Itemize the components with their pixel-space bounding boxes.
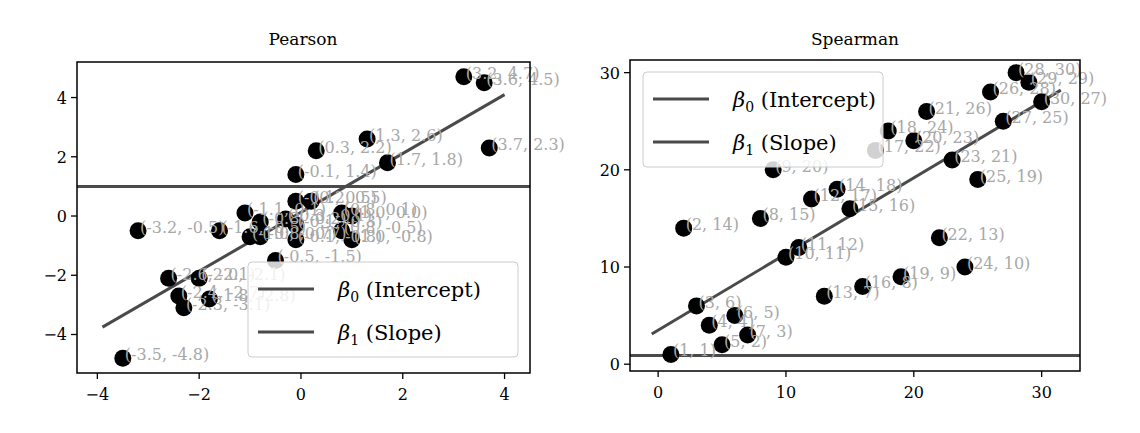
spearman-point-label: (27, 25) <box>1005 108 1068 127</box>
pearson-title: Pearson <box>269 29 338 49</box>
pearson-x-tick-label: 2 <box>398 385 408 404</box>
spearman-y-tick-label: 20 <box>600 161 620 180</box>
pearson-legend: β0 (Intercept)β1 (Slope) <box>248 262 518 357</box>
spearman-x-tick-label: 20 <box>904 383 924 402</box>
spearman-point-label: (17, 22) <box>877 137 940 156</box>
spearman-point-label: (8, 15) <box>762 205 815 224</box>
pearson-point-label: (-0.1, 1.4) <box>298 162 377 181</box>
pearson-x-tick-label: 4 <box>499 385 509 404</box>
pearson-y-tick-label: 0 <box>57 207 67 226</box>
pearson-y-axis: −4−2024 <box>43 89 77 345</box>
spearman-y-tick-label: 0 <box>610 355 620 374</box>
spearman-point-label: (22, 13) <box>941 225 1004 244</box>
spearman-x-axis: 0102030 <box>653 371 1052 402</box>
spearman-point-label: (30, 27) <box>1044 89 1107 108</box>
spearman-point-label: (5, 2) <box>724 332 767 351</box>
figure-canvas: Pearson (3.2, 4.7)(3.6, 4.5)(3.7, 2.3)(1… <box>0 0 1140 433</box>
spearman-point-label: (15, 16) <box>852 196 915 215</box>
pearson-point-label: (-3.2, -0.5) <box>140 218 224 237</box>
spearman-x-tick-label: 0 <box>653 383 663 402</box>
pearson-x-axis: −4−2024 <box>86 373 510 404</box>
pearson-panel: Pearson (3.2, 4.7)(3.6, 4.5)(3.7, 2.3)(1… <box>43 29 564 404</box>
pearson-legend-label: β0 (Intercept) <box>337 278 481 305</box>
spearman-title: Spearman <box>811 29 899 49</box>
pearson-point-label: (3.7, 2.3) <box>491 135 565 154</box>
spearman-point-label: (1, 1) <box>673 341 716 360</box>
pearson-point-label: (1.7, 1.8) <box>389 150 463 169</box>
pearson-y-tick-label: 2 <box>57 148 67 167</box>
spearman-point-label: (13, 7) <box>826 283 879 302</box>
spearman-point-label: (2, 14) <box>686 215 739 234</box>
spearman-point-label: (25, 19) <box>980 167 1043 186</box>
spearman-point-label: (24, 10) <box>967 254 1030 273</box>
spearman-point-label: (10, 11) <box>788 244 851 263</box>
spearman-y-tick-label: 10 <box>600 258 620 277</box>
pearson-point-label: (0.3, 2.2) <box>318 138 392 157</box>
spearman-panel: Spearman (28, 30)(29, 29)(26, 28)(30, 27… <box>600 29 1107 402</box>
spearman-point-label: (3, 6) <box>698 293 741 312</box>
spearman-point-label: (23, 21) <box>954 147 1017 166</box>
pearson-y-tick-label: −4 <box>43 325 67 344</box>
pearson-point-label: (-3.5, -4.8) <box>125 345 209 364</box>
pearson-y-tick-label: 4 <box>57 89 67 108</box>
pearson-x-tick-label: −2 <box>187 385 211 404</box>
spearman-x-tick-label: 10 <box>776 383 796 402</box>
spearman-y-tick-label: 30 <box>600 64 620 83</box>
pearson-x-tick-label: −4 <box>86 385 110 404</box>
spearman-point-label: (4, 4) <box>711 312 754 331</box>
figure: Pearson (3.2, 4.7)(3.6, 4.5)(3.7, 2.3)(1… <box>0 0 1140 433</box>
spearman-point-label: (21, 26) <box>929 99 992 118</box>
spearman-y-axis: 0102030 <box>600 64 630 375</box>
pearson-y-tick-label: −2 <box>43 266 67 285</box>
pearson-x-tick-label: 0 <box>296 385 306 404</box>
spearman-legend-label: β0 (Intercept) <box>732 88 876 115</box>
pearson-point-label: (3.6, 4.5) <box>486 70 560 89</box>
pearson-point-label: (-0.1, -0.8) <box>298 227 382 246</box>
spearman-legend: β0 (Intercept)β1 (Slope) <box>643 72 883 167</box>
spearman-x-tick-label: 30 <box>1031 383 1051 402</box>
